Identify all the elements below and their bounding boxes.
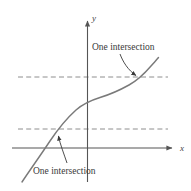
lower-callout-arrow (59, 136, 68, 163)
upper-callout-arrow (120, 54, 136, 76)
graph-svg: y x One intersection One intersection (0, 0, 191, 191)
y-axis-label: y (91, 13, 96, 23)
upper-intersection-label: One intersection (92, 42, 155, 52)
curve-path (22, 58, 159, 183)
figure-canvas: y x One intersection One intersection (0, 0, 191, 191)
lower-intersection-label: One intersection (33, 166, 96, 176)
x-axis-label: x (179, 143, 184, 153)
